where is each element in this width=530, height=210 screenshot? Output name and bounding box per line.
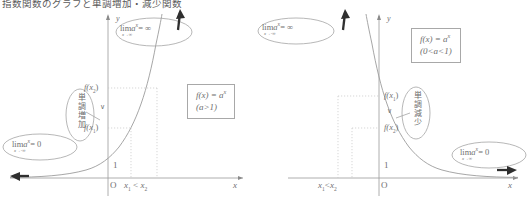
left-y-axis-label: y	[116, 14, 120, 23]
right-right-arrowhead-icon	[507, 166, 517, 175]
right-formula-exponent: x	[448, 33, 451, 39]
right-fx2-label: f(x2)	[384, 122, 398, 132]
right-value-relation-symbol: ∨	[387, 107, 392, 115]
left-x1-subscript: 1	[128, 186, 131, 192]
left-value-relation-symbol: ∨	[100, 103, 105, 111]
right-callout-pointer	[396, 113, 410, 118]
right-fx1-label: f(x1)	[384, 90, 398, 100]
left-limit-bottom-subscript: x→-∞	[14, 148, 25, 153]
left-x2-subscript: 2	[144, 186, 147, 192]
right-x-axis-label: x	[508, 180, 512, 190]
right-x-arrow-icon	[513, 176, 518, 180]
left-fx2-label: f(x2)	[84, 82, 98, 92]
left-limit-bottom-result: = 0	[30, 139, 41, 149]
left-x-relation: x1 < x2	[124, 180, 147, 190]
right-fx1-text: f(x	[384, 90, 393, 100]
left-formula-exponent: x	[224, 89, 227, 95]
left-fx1-text: f(x	[84, 122, 93, 132]
left-formula-line1: f(x) = ax	[196, 89, 226, 101]
right-limit-bottom-result: = 0	[478, 147, 489, 157]
left-x-relation-op: <	[133, 180, 138, 190]
left-up-arrowhead-icon	[176, 9, 185, 19]
right-y-axis-label: y	[387, 14, 391, 23]
left-callout-pointer	[86, 112, 100, 120]
right-formula-fx: f(x) = a	[420, 34, 448, 44]
left-one-label: 1	[113, 160, 118, 170]
right-y-arrow-icon	[377, 14, 381, 20]
left-formula-box: f(x) = ax (a>1)	[187, 84, 235, 119]
left-limit-top-subscript: x→∞	[122, 32, 132, 37]
right-x-relation: x1<x2	[318, 180, 337, 190]
left-left-arrowhead-icon	[10, 172, 20, 181]
left-fx1-label: f(x1)	[84, 122, 98, 132]
left-direction-arrows	[14, 13, 180, 176]
left-formula-fx: f(x) = a	[196, 90, 224, 100]
left-x-axis-label: x	[233, 180, 237, 190]
left-origin-label: O	[110, 180, 117, 190]
right-formula-line1: f(x) = ax	[420, 33, 452, 45]
left-fx2-text: f(x	[84, 82, 93, 92]
left-y-arrow-icon	[106, 14, 110, 20]
right-formula-box: f(x) = ax (0<a<1)	[411, 28, 461, 63]
right-up-arrowhead-icon	[341, 9, 350, 19]
right-one-label: 1	[384, 160, 389, 170]
right-fx2-text: f(x	[384, 122, 393, 132]
right-limit-top-subscript: x→-∞	[264, 31, 275, 36]
right-origin-label: O	[381, 180, 388, 190]
right-callout-label: 単調減少	[411, 91, 422, 127]
right-formula-line2: (0<a<1)	[420, 45, 452, 57]
right-limit-bottom-subscript: x→∞	[462, 156, 472, 161]
right-x2-subscript: 2	[334, 186, 337, 192]
right-limit-top-result: = ∞	[280, 22, 293, 32]
left-formula-line2: (a>1)	[196, 101, 226, 113]
left-limit-top-result: = ∞	[138, 23, 151, 33]
figure-canvas: 指数関数のグラフと単調増加・減少関数	[0, 0, 530, 210]
left-exponential-curve	[10, 14, 162, 177]
left-x-arrow-icon	[238, 176, 243, 180]
